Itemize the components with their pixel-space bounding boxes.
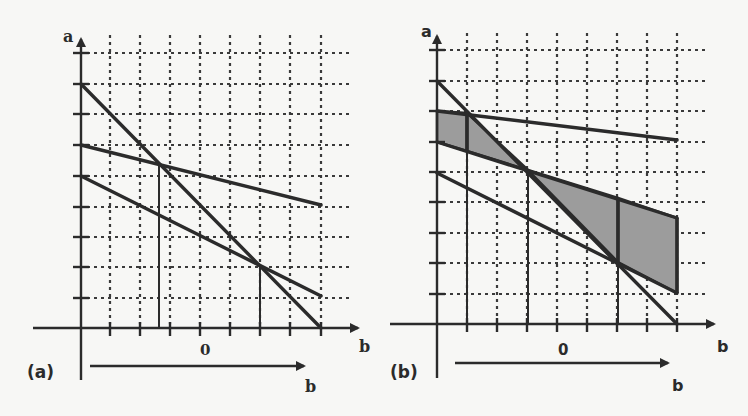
arrow-label: b <box>672 376 683 395</box>
x-axis-label: b <box>717 337 728 356</box>
panel-caption: (a) <box>27 362 54 382</box>
panel-b: a b 0 b (b) <box>390 22 728 395</box>
panel-a: a b 0 b (a) <box>27 27 370 396</box>
origin-label: 0 <box>200 341 210 359</box>
diagram-canvas: a b 0 b (a) a b 0 b (b) <box>0 0 748 416</box>
origin-label: 0 <box>558 341 568 359</box>
y-axis-label: a <box>63 27 73 46</box>
axes-a <box>33 39 358 380</box>
drop-lines-a <box>159 165 260 328</box>
axes-b <box>390 36 714 378</box>
labels-a: a b 0 b (a) <box>27 27 370 396</box>
arrow-label: b <box>305 377 316 396</box>
panel-caption: (b) <box>390 362 418 382</box>
y-axis-label: a <box>421 22 432 41</box>
x-axis-label: b <box>359 337 370 356</box>
